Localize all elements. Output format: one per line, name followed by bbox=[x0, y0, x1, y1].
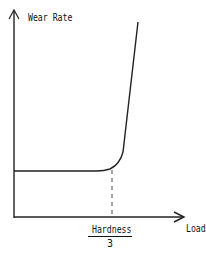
wear-rate-curve bbox=[14, 22, 138, 171]
x-axis-label: Load bbox=[186, 224, 206, 234]
hardness-fraction-label: Hardness 3 bbox=[88, 224, 132, 249]
y-axis-label: Wear Rate bbox=[28, 13, 72, 23]
fraction-denominator: 3 bbox=[88, 238, 132, 249]
fraction-numerator: Hardness bbox=[92, 224, 128, 235]
fraction-bar bbox=[88, 236, 132, 237]
